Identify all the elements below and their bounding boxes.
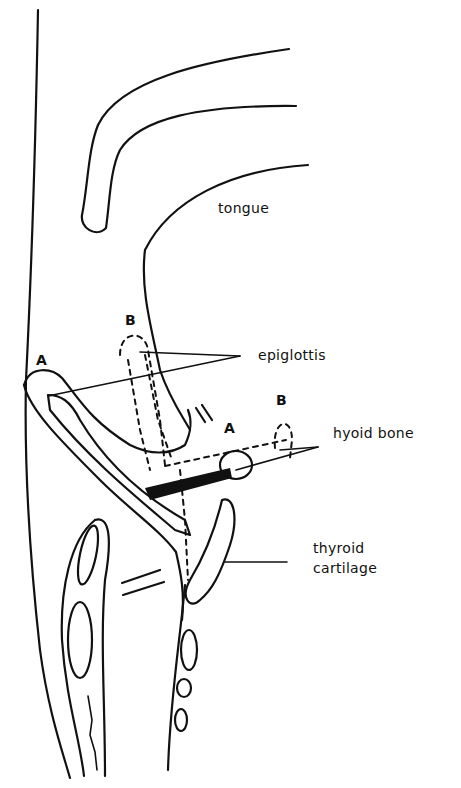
diagram-canvas: tongue epiglottis hyoid bone thyroid car… [0, 0, 461, 788]
marker-hyoid-a: A [224, 420, 235, 436]
label-thyroid: thyroid [313, 540, 365, 556]
anatomy-drawing [0, 0, 461, 788]
marker-hyoid-b: B [276, 392, 287, 408]
hyoid-shadow [145, 468, 232, 500]
label-cartilage: cartilage [313, 560, 377, 576]
epiglottis-leader-2 [48, 356, 240, 396]
label-tongue: tongue [218, 200, 269, 216]
label-epiglottis: epiglottis [258, 347, 326, 363]
epiglottis-position-b [120, 336, 165, 465]
thyroid-cartilage-shape [186, 499, 235, 603]
marker-epiglottis-b: B [125, 312, 136, 328]
epiglottis-leader-1 [140, 352, 240, 356]
marker-epiglottis-a: A [36, 352, 47, 368]
hyoid-leader-2 [236, 447, 318, 470]
label-hyoid-bone: hyoid bone [333, 425, 414, 441]
